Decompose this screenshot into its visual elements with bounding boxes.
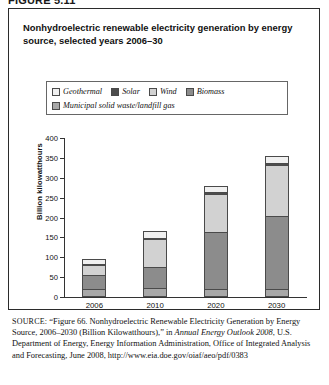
x-axis-tick-label: 2020 — [207, 301, 224, 310]
y-axis-tick-label: 200 — [45, 213, 58, 222]
y-axis-tick-label: 250 — [45, 193, 58, 202]
y-axis-tick — [60, 257, 64, 258]
bar-2020[interactable] — [204, 186, 228, 297]
y-axis-tick-label: 300 — [45, 173, 58, 182]
x-axis-tick-label: 2006 — [86, 301, 103, 310]
bar-segment-wind — [144, 240, 166, 268]
bar-segment-biomass — [83, 276, 105, 291]
y-axis-tick — [60, 297, 64, 298]
y-axis-tick-label: 350 — [45, 153, 58, 162]
x-axis-line — [64, 297, 307, 298]
y-axis-tick — [60, 237, 64, 238]
chart-axes: 0501001502002503003504002006201020202030 — [64, 138, 307, 297]
bar-segment-biomass — [266, 217, 288, 289]
x-axis-tick-label: 2030 — [268, 301, 285, 310]
bar-2010[interactable] — [143, 231, 167, 297]
y-axis-tick-label: 100 — [45, 253, 58, 262]
bar-segment-municipal-solid-waste-landfill-gas — [83, 290, 105, 296]
bar-segment-municipal-solid-waste-landfill-gas — [205, 290, 227, 296]
source-italic-1: Annual Energy Outlook 2008 — [175, 328, 273, 337]
y-axis-tick — [60, 138, 64, 139]
bar-segment-geothermal — [205, 187, 227, 194]
bar-2030[interactable] — [265, 156, 289, 297]
source-prefix: SOURCE: — [12, 317, 47, 326]
y-axis-tick-label: 50 — [50, 273, 58, 282]
bar-segment-wind — [205, 195, 227, 233]
x-axis-tick-label: 2010 — [146, 301, 163, 310]
bar-segment-municipal-solid-waste-landfill-gas — [144, 289, 166, 296]
y-axis-tick — [60, 178, 64, 179]
figure-frame: Nonhydroelectric renewable electricity g… — [8, 8, 320, 310]
y-axis-tick — [60, 158, 64, 159]
chart-plot-area: Billion kilowatthours 050100150200250300… — [9, 9, 321, 311]
y-axis-line — [64, 138, 65, 297]
y-axis-tick — [60, 218, 64, 219]
bar-segment-wind — [83, 266, 105, 275]
bar-segment-geothermal — [266, 157, 288, 164]
y-axis-tick — [60, 277, 64, 278]
y-axis-tick — [60, 198, 64, 199]
bar-segment-biomass — [205, 233, 227, 290]
source-note: SOURCE: “Figure 66. Nonhydroelectric Ren… — [12, 316, 318, 361]
bar-segment-wind — [266, 166, 288, 217]
y-axis-tick-label: 400 — [45, 134, 58, 143]
bar-2006[interactable] — [82, 259, 106, 297]
y-axis-tick-label: 150 — [45, 233, 58, 242]
y-axis-tick-label: 0 — [54, 293, 58, 302]
bar-segment-municipal-solid-waste-landfill-gas — [266, 290, 288, 296]
y-axis-label: Billion kilowatthours — [35, 127, 44, 237]
bar-segment-biomass — [144, 268, 166, 289]
figure-number: FIGURE 5.11 — [8, 0, 76, 4]
